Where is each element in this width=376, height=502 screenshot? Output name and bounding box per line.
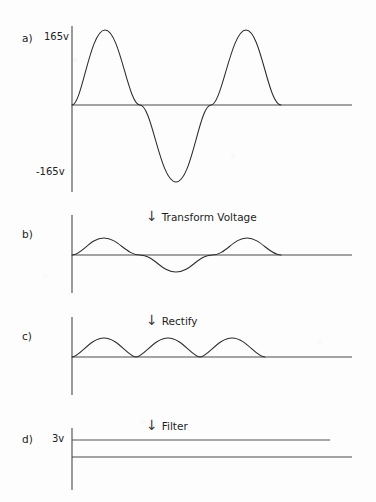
panel-c-plot — [0, 305, 376, 410]
figure-canvas: a) 165v -165v b) ↓ Transform Voltage c) — [0, 0, 376, 502]
panel-b-plot — [0, 200, 376, 305]
panel-a: a) 165v -165v — [0, 0, 376, 200]
panel-a-plot — [0, 0, 376, 200]
panel-b: b) ↓ Transform Voltage — [0, 200, 376, 305]
panel-a-waveform — [72, 30, 281, 182]
panel-d: d) 3v ↓ Filter — [0, 410, 376, 502]
panel-c: c) ↓ Rectify — [0, 305, 376, 410]
panel-c-waveform — [72, 338, 265, 357]
panel-d-plot — [0, 410, 376, 502]
